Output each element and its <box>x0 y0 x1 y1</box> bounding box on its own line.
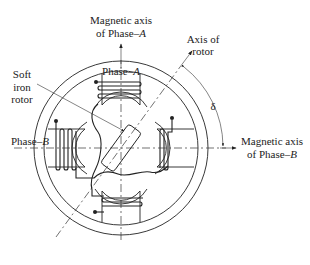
delta-arc <box>184 67 223 146</box>
label-soft: Soft <box>13 68 31 80</box>
label-axis-b-line2: of Phase–B <box>247 148 297 160</box>
label-phase-b: Phase–B <box>11 135 49 147</box>
label-rotor: rotor <box>11 93 33 105</box>
coil-phase-b-left <box>54 119 76 170</box>
label-rotor-axis-line1: Axis of <box>187 33 220 45</box>
label-phase-a: Phase–A <box>102 65 140 77</box>
label-rotor-axis-line2: rotor <box>192 45 214 57</box>
connecting-wire <box>91 104 104 196</box>
label-axis-a-line1: Magnetic axis <box>90 14 152 26</box>
label-axis-a-line2: of Phase–A <box>96 27 146 39</box>
axis-rotor-arrow <box>180 51 192 67</box>
motor-diagram: Magnetic axis of Phase–A Axis of rotor S… <box>0 0 310 265</box>
label-iron: iron <box>13 81 31 93</box>
rotor-leader-line <box>37 84 124 131</box>
label-delta: δ <box>210 100 215 112</box>
connecting-wire-2 <box>76 166 168 178</box>
label-axis-b-line1: Magnetic axis <box>241 135 303 147</box>
